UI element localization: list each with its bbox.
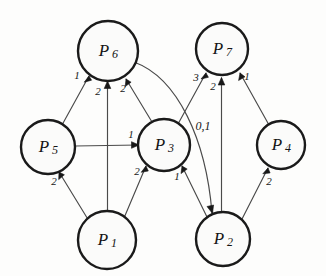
edge-p4-p7 [239,73,269,125]
edge-p3-p6-line [126,79,152,122]
node-p1-subscript: 1 [111,236,117,250]
graph-canvas: 1 2 2 1 2 2 1 3 2 1 2 0,1 P 6 P 7 [0,0,326,276]
node-p5-subscript: 5 [52,143,58,157]
edge-label-p6-p2: 0,1 [196,119,211,133]
edge-p1-p3-arrowhead [141,166,148,172]
node-p7[interactable]: P 7 [196,23,248,75]
node-p1[interactable]: P 1 [78,211,136,269]
edge-p2-p7 [218,78,225,213]
node-p7-subscript: 7 [226,45,233,59]
edge-p3-p6 [125,79,152,122]
node-p4[interactable]: P 4 [257,121,305,169]
edge-label-p2-p3: 1 [174,170,180,182]
edge-p2-p3-arrowhead [181,166,187,174]
edge-label-p1-p5: 2 [51,175,57,187]
node-p6-label: P [98,41,109,60]
node-p7-label: P [212,39,223,58]
node-p6[interactable]: P 6 [78,21,138,81]
edge-p1-p5-line [59,172,89,221]
node-p4-subscript: 4 [285,141,291,155]
edge-label-p2-p7: 2 [210,80,216,92]
edge-label-p4-p7: 1 [244,70,250,82]
edge-p5-p3-line [75,145,139,146]
nodes-layer: P 6 P 7 P 5 P 3 P 4 [21,21,305,269]
node-p1-label: P [97,230,108,249]
edge-p2-p4-arrowhead [263,168,270,174]
node-p4-label: P [271,135,282,154]
node-p3-label: P [154,135,165,154]
node-p5-label: P [38,137,49,156]
edge-p2-p7-arrowhead [218,78,225,86]
edge-p5-p6 [62,76,92,125]
edge-label-p3-p7: 3 [192,71,199,83]
node-p2-label: P [213,229,224,248]
node-p2-subscript: 2 [227,235,233,249]
edge-p3-p7-line [178,73,206,124]
edge-p2-p4-line [241,168,268,221]
edge-p5-p6-line [62,76,89,125]
node-p3[interactable]: P 3 [138,119,190,171]
edge-p2-p3 [181,166,207,217]
node-p5[interactable]: P 5 [21,120,75,174]
edge-label-p1-p6: 2 [95,85,101,97]
edge-label-p3-p6: 2 [120,82,126,94]
edge-label-p2-p4: 2 [266,175,272,187]
edge-p3-p7-arrowhead [201,73,208,79]
node-p6-subscript: 6 [112,47,118,61]
edge-label-p5-p3: 1 [128,128,134,140]
edge-label-p1-p3: 2 [134,165,140,177]
graph-diagram-figure: 1 2 2 1 2 2 1 3 2 1 2 0,1 P 6 P 7 [0,0,326,276]
node-p2[interactable]: P 2 [196,212,250,266]
edge-p1-p5 [59,172,89,221]
edge-p6-p2-arrowhead [207,205,214,214]
edge-label-p5-p6: 1 [74,69,80,81]
node-p3-subscript: 3 [167,141,174,155]
edge-p2-p3-line [182,166,207,217]
